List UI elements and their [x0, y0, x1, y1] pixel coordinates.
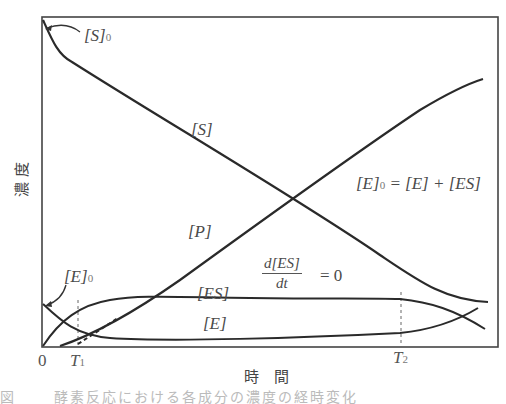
y-axis-label: 濃 度 — [15, 162, 30, 197]
fraction-denominator: dt — [262, 274, 302, 291]
x-tick-origin: 0 — [38, 352, 47, 369]
conservation-equation: [E]0 = [E] + [ES] — [356, 175, 481, 192]
fraction-numerator: d[ES] — [262, 256, 302, 274]
t1-subscript: 1 — [79, 356, 85, 368]
label-s: [S] — [191, 121, 213, 138]
conservation-lhs: [E] — [356, 174, 380, 193]
x-tick-t1: T1 — [70, 352, 85, 369]
label-e0-subscript: 0 — [88, 272, 94, 284]
label-s0-text: [S] — [84, 26, 106, 45]
s0-pointer-arrow — [47, 25, 80, 32]
curve-e — [43, 304, 478, 340]
label-s0: [S]0 — [84, 27, 111, 44]
x-tick-t2: T2 — [393, 349, 408, 366]
label-p: [P] — [188, 223, 212, 240]
label-e0: [E]0 — [64, 268, 93, 285]
figure-caption: 図 酵素反応における各成分の濃度の経時変化 — [0, 386, 506, 404]
conservation-rhs: = [E] + [ES] — [385, 174, 481, 193]
x-axis-label: 時 間 — [244, 370, 289, 385]
curve-p — [60, 79, 483, 346]
e0-arrowhead-icon — [45, 301, 52, 307]
label-e: [E] — [203, 315, 227, 332]
steady-state-fraction: d[ES] dt — [262, 256, 302, 291]
t2-subscript: 2 — [402, 353, 408, 365]
label-e0-text: [E] — [64, 267, 88, 286]
label-es: [ES] — [197, 285, 229, 302]
steady-state-equals-zero: = 0 — [320, 267, 342, 284]
label-s0-subscript: 0 — [106, 31, 112, 43]
